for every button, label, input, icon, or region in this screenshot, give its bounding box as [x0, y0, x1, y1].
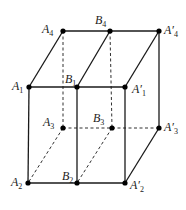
point-B4: [107, 28, 112, 33]
point-A2p: [122, 180, 127, 185]
edge-A4-A1: [29, 31, 63, 87]
label-A2p: A′2: [129, 178, 144, 194]
label-A1: A1: [11, 79, 23, 95]
label-B4: B4: [95, 13, 106, 29]
point-A3: [60, 125, 65, 130]
point-A2: [25, 180, 30, 185]
label-A4p: A′4: [163, 23, 178, 39]
dashed-edge-B3-B2: [77, 128, 112, 183]
point-A3p: [156, 125, 161, 130]
vertex-points: [25, 28, 161, 185]
point-B3: [109, 125, 114, 130]
label-B3: B3: [93, 111, 104, 127]
label-A3: A3: [42, 115, 54, 131]
point-A4p: [156, 28, 161, 33]
label-A4: A4: [41, 22, 53, 38]
label-A2: A2: [10, 175, 22, 191]
point-A1: [26, 84, 31, 89]
edge-A1-A2: [28, 87, 29, 183]
visible-edges: [28, 31, 159, 183]
label-A3p: A′3: [163, 120, 178, 136]
edge-B4-B1: [77, 31, 110, 87]
point-A1p: [122, 84, 127, 89]
edge-A4p-A1p: [125, 31, 159, 87]
label-B2: B2: [62, 169, 73, 185]
point-A4: [60, 28, 65, 33]
label-B1: B1: [65, 72, 76, 88]
dashed-edge-A3-A2: [28, 128, 63, 183]
point-B2: [74, 180, 79, 185]
label-A1p: A′1: [131, 82, 146, 98]
edge-A3p-A2p: [125, 128, 159, 183]
dashed-edge-B4-B3: [110, 31, 112, 128]
prism-diagram: A4B4A′4A1B1A′1A3B3A′3A2B2A′2: [0, 0, 186, 210]
